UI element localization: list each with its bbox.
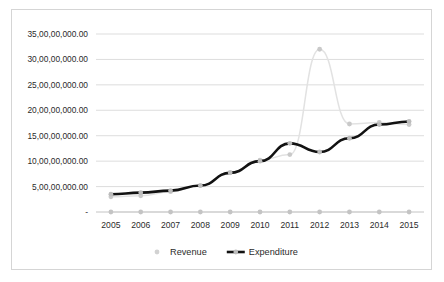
x-axis-tick-label: 2014 xyxy=(370,220,389,230)
x-axis-tick-label: 2015 xyxy=(400,220,419,230)
series-lines xyxy=(109,47,412,215)
chart-legend: RevenueExpenditure xyxy=(155,247,298,257)
data-point-marker xyxy=(258,210,263,215)
data-point-marker xyxy=(287,152,292,157)
y-axis-tick-label: 20,00,00,000.00 xyxy=(27,105,88,115)
data-point-marker xyxy=(109,192,114,197)
x-axis-tick-label: 2010 xyxy=(250,220,269,230)
y-axis-tick-label: 10,00,00,000.00 xyxy=(27,156,88,166)
y-axis-tick-label: 30,00,00,000.00 xyxy=(27,54,88,64)
data-point-marker xyxy=(168,188,173,193)
legend-label: Revenue xyxy=(170,247,207,257)
y-axis-tick-label: 5,00,00,000.00 xyxy=(32,182,88,192)
y-axis-tick-label: - xyxy=(85,207,88,217)
x-axis-tick-label: 2007 xyxy=(161,220,180,230)
data-point-marker xyxy=(138,190,143,195)
data-point-marker xyxy=(377,210,382,215)
data-point-marker xyxy=(317,150,322,155)
data-point-marker xyxy=(377,122,382,127)
data-point-marker xyxy=(109,210,114,215)
x-axis-tick-label: 2008 xyxy=(191,220,210,230)
legend-label: Expenditure xyxy=(249,247,298,257)
data-point-marker xyxy=(258,159,263,164)
data-point-marker xyxy=(317,210,322,215)
data-point-marker xyxy=(347,136,352,141)
data-point-marker xyxy=(347,122,352,127)
data-point-marker xyxy=(407,119,412,124)
x-axis-tick-label: 2012 xyxy=(310,220,329,230)
x-axis-tick-labels: 2005200620072008200920102011201220132014… xyxy=(101,220,419,230)
x-axis-tick-label: 2009 xyxy=(221,220,240,230)
data-point-marker xyxy=(347,210,352,215)
x-axis-tick-label: 2005 xyxy=(101,220,120,230)
y-axis-tick-label: 35,00,00,000.00 xyxy=(27,29,88,39)
series-line xyxy=(111,49,409,196)
data-point-marker xyxy=(198,210,203,215)
data-point-marker xyxy=(168,210,173,215)
y-axis-tick-labels: -5,00,00,000.0010,00,00,000.0015,00,00,0… xyxy=(27,29,88,217)
data-point-marker xyxy=(287,210,292,215)
data-point-marker xyxy=(228,210,233,215)
x-axis-tick-label: 2006 xyxy=(131,220,150,230)
data-point-marker xyxy=(228,170,233,175)
line-chart: -5,00,00,000.0010,00,00,000.0015,00,00,0… xyxy=(0,0,444,282)
x-axis-tick-label: 2013 xyxy=(340,220,359,230)
legend-marker-swatch xyxy=(155,250,160,255)
legend-marker-swatch xyxy=(233,250,238,255)
data-point-marker xyxy=(198,183,203,188)
data-point-marker xyxy=(138,210,143,215)
y-axis-tick-label: 25,00,00,000.00 xyxy=(27,80,88,90)
data-point-marker xyxy=(317,47,322,52)
data-point-marker xyxy=(287,141,292,146)
x-axis-tick-label: 2011 xyxy=(281,220,300,230)
data-point-marker xyxy=(407,210,412,215)
y-axis-tick-label: 15,00,00,000.00 xyxy=(27,131,88,141)
